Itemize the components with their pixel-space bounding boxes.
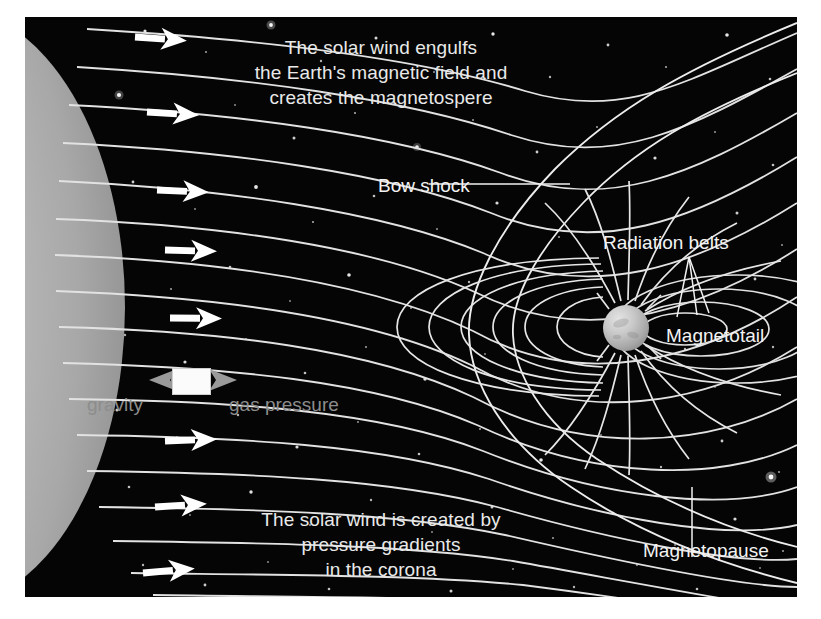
gas-pressure-label: gas pressure	[229, 394, 339, 416]
gravity-label: gravity	[87, 394, 143, 416]
bottom-caption-line-2: pressure gradients	[221, 532, 541, 557]
magnetosphere-diagram: The solar wind engulfs the Earth's magne…	[25, 17, 797, 597]
bottom-caption: The solar wind is created by pressure gr…	[221, 507, 541, 582]
top-caption-line-2: the Earth's magnetic field and	[231, 60, 531, 85]
magnetotail-label: Magnetotail	[666, 325, 764, 347]
radiation-belts-label: Radiation belts	[603, 232, 729, 254]
figure-frame: The solar wind engulfs the Earth's magne…	[0, 0, 821, 619]
bow-shock-label: Bow shock	[378, 175, 470, 197]
top-caption: The solar wind engulfs the Earth's magne…	[231, 35, 531, 110]
top-caption-line-1: The solar wind engulfs	[231, 35, 531, 60]
bottom-caption-line-1: The solar wind is created by	[221, 507, 541, 532]
bottom-caption-line-3: in the corona	[221, 557, 541, 582]
top-caption-line-3: creates the magnetospere	[231, 85, 531, 110]
force-balance-box	[172, 368, 211, 395]
earth	[603, 305, 649, 351]
magnetopause-label: Magnetopause	[643, 540, 769, 562]
